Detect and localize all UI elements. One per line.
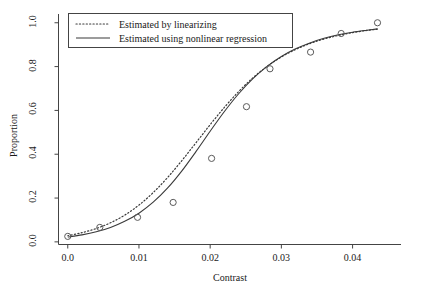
- data-point-marker: [243, 104, 249, 110]
- y-tick-label: 0.4: [27, 139, 38, 167]
- y-axis-ticks: [55, 23, 59, 242]
- x-tick-label: 0.02: [190, 252, 230, 263]
- x-axis-title: Contrast: [200, 272, 260, 283]
- x-tick-label: 0.01: [119, 252, 159, 263]
- x-tick-label: 0.0: [48, 252, 88, 263]
- chart-legend: Estimated by linearizing Estimated using…: [69, 14, 293, 48]
- y-tick-label: 0.2: [27, 183, 38, 211]
- y-tick-label: 0.8: [27, 51, 38, 79]
- y-tick-label: 0.6: [27, 95, 38, 123]
- data-point-marker: [208, 155, 214, 161]
- data-point-marker: [267, 66, 273, 72]
- y-tick-label: 1.0: [27, 7, 38, 35]
- legend-label-estimated-using-nonlinear-regression: Estimated using nonlinear regression: [119, 33, 267, 44]
- data-point-marker: [170, 199, 176, 205]
- series-line-estimated-using-nonlinear-regression: [68, 29, 378, 237]
- x-tick-label: 0.04: [333, 252, 373, 263]
- data-point-marker: [307, 49, 313, 55]
- legend-label-estimated-by-linearizing: Estimated by linearizing: [119, 19, 217, 30]
- x-tick-label: 0.03: [261, 252, 301, 263]
- data-point-markers: [65, 20, 381, 240]
- data-point-marker: [374, 20, 380, 26]
- y-tick-label: 0.0: [27, 226, 38, 254]
- data-point-marker: [134, 214, 140, 220]
- x-axis-ticks: [68, 245, 353, 249]
- chart-figure: Estimated by linearizing Estimated using…: [0, 0, 425, 297]
- y-axis-title: Proportion: [8, 101, 19, 171]
- series-line-estimated-by-linearizing: [68, 29, 378, 236]
